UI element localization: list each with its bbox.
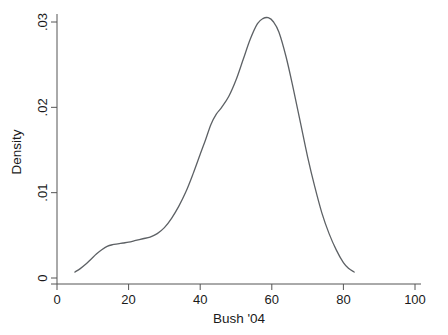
y-tick-label: .03 [35, 13, 50, 31]
density-plot-figure: 0.01.02.03 020406080100 Bush '04 Density [0, 0, 448, 335]
y-tick-label: .01 [35, 184, 50, 202]
chart-canvas: 0.01.02.03 020406080100 Bush '04 Density [0, 0, 448, 335]
x-axis-title: Bush '04 [213, 311, 266, 326]
y-tick-label: 0 [35, 274, 50, 281]
y-axis-title: Density [9, 129, 24, 174]
y-axis: 0.01.02.03 [35, 13, 57, 284]
density-curve [75, 17, 354, 272]
x-tick-group: 020406080100 [53, 284, 425, 307]
x-tick-label: 40 [193, 292, 207, 307]
x-tick-label: 80 [336, 292, 350, 307]
x-axis: 020406080100 [51, 284, 426, 307]
x-tick-label: 0 [53, 292, 60, 307]
x-tick-label: 60 [265, 292, 279, 307]
x-tick-label: 100 [404, 292, 426, 307]
y-tick-group: 0.01.02.03 [35, 13, 57, 282]
data-series-group [75, 17, 354, 272]
x-tick-label: 20 [121, 292, 135, 307]
y-tick-label: .02 [35, 98, 50, 116]
